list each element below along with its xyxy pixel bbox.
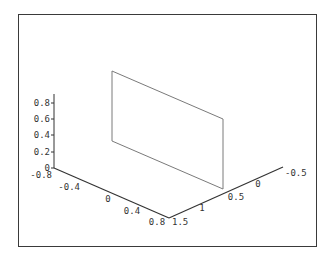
z-ticks: 0 0.2 0.4 0.6 0.8 (34, 98, 54, 173)
plot-3d: 0 0.2 0.4 0.6 0.8 -0.8 -0.4 0 0.4 0.8 1.… (0, 0, 336, 261)
x-tick-label: -0.4 (58, 182, 80, 192)
y-tick-label: 1.5 (172, 217, 188, 227)
y-tick-label: 0 (255, 179, 260, 189)
z-tick-label: 0.2 (34, 147, 50, 157)
z-tick-label: 0.4 (34, 130, 50, 140)
x-axis (54, 168, 169, 218)
x-tick-label: 0 (105, 194, 110, 204)
z-tick-label: 0.6 (34, 114, 50, 124)
y-tick-label: 1 (199, 203, 204, 213)
z-tick-label: 0.8 (34, 98, 50, 108)
y-axis (169, 167, 283, 218)
x-tick-label: 0.4 (124, 206, 140, 216)
y-ticks: 1.5 1 0.5 0 -0.5 (172, 168, 307, 227)
x-tick-label: -0.8 (30, 170, 52, 180)
x-ticks: -0.8 -0.4 0 0.4 0.8 (30, 170, 165, 227)
plane-outline (112, 71, 223, 189)
x-tick-label: 0.8 (149, 217, 165, 227)
y-tick-label: -0.5 (285, 168, 307, 178)
y-tick-label: 0.5 (228, 192, 244, 202)
